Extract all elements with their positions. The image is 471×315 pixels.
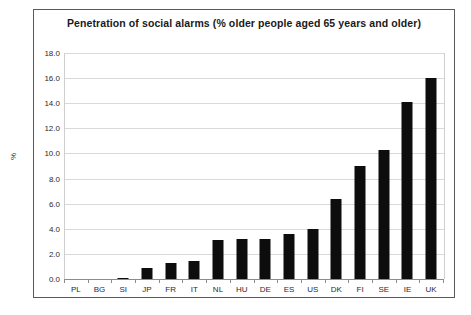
y-axis-tick-label: 0.0 xyxy=(30,275,60,284)
bar-it xyxy=(189,261,200,279)
x-axis-tick-label: SE xyxy=(378,285,389,294)
x-axis-tick xyxy=(372,279,373,283)
y-axis-tick-label: 12.0 xyxy=(30,124,60,133)
bar-series xyxy=(64,53,443,279)
y-axis-tick-labels: 0.02.04.06.08.010.012.014.016.018.0 xyxy=(26,53,60,279)
bar-us xyxy=(307,229,318,279)
x-axis-tick-label: HU xyxy=(236,285,248,294)
x-axis-tick xyxy=(88,279,89,283)
bar-jp xyxy=(141,268,152,279)
x-axis-tick-label: FI xyxy=(357,285,364,294)
x-axis-tick xyxy=(419,279,420,283)
y-axis-tick-label: 16.0 xyxy=(30,74,60,83)
x-axis-tick-label: PL xyxy=(71,285,81,294)
x-axis-tick-label: UK xyxy=(426,285,437,294)
x-axis-tick xyxy=(396,279,397,283)
y-axis-label: % xyxy=(9,153,18,160)
y-axis-tick-label: 18.0 xyxy=(30,49,60,58)
x-axis-tick xyxy=(206,279,207,283)
y-axis-tick-label: 6.0 xyxy=(30,199,60,208)
chart-title: Penetration of social alarms (% older pe… xyxy=(33,17,455,29)
x-axis-tick-label: IE xyxy=(404,285,412,294)
x-axis-tick-label: JP xyxy=(142,285,151,294)
x-axis-tick xyxy=(111,279,112,283)
x-axis-tick xyxy=(64,279,65,283)
x-axis-tick-label: ES xyxy=(284,285,295,294)
y-axis-tick-label: 10.0 xyxy=(30,149,60,158)
x-axis-tick xyxy=(182,279,183,283)
y-axis-tick-label: 8.0 xyxy=(30,174,60,183)
x-axis-tick-label: NL xyxy=(213,285,223,294)
x-axis-tick xyxy=(230,279,231,283)
y-axis-tick-label: 14.0 xyxy=(30,99,60,108)
x-axis-tick xyxy=(325,279,326,283)
bar-se xyxy=(378,150,389,279)
x-axis-tick-label: BG xyxy=(94,285,106,294)
x-axis-tick xyxy=(277,279,278,283)
bar-nl xyxy=(212,240,223,279)
x-axis-tick xyxy=(443,279,444,283)
x-axis-tick xyxy=(348,279,349,283)
x-axis-tick-labels: PLBGSIJPFRITNLHUDEESUSDKFISEIEUK xyxy=(64,285,443,299)
x-axis-ticks xyxy=(64,279,443,283)
x-axis-tick-label: SI xyxy=(119,285,127,294)
bar-ie xyxy=(402,102,413,279)
x-axis-tick xyxy=(301,279,302,283)
x-axis-tick-label: DK xyxy=(331,285,342,294)
bar-es xyxy=(284,234,295,279)
x-axis-tick xyxy=(254,279,255,283)
y-axis-tick-label: 2.0 xyxy=(30,249,60,258)
y-axis-tick-label: 4.0 xyxy=(30,224,60,233)
x-axis-tick-label: FR xyxy=(165,285,176,294)
x-axis-tick-label: US xyxy=(307,285,318,294)
x-axis-tick-label: DE xyxy=(260,285,271,294)
bar-de xyxy=(260,239,271,279)
bar-hu xyxy=(236,239,247,279)
bar-fr xyxy=(165,263,176,279)
x-axis-tick xyxy=(135,279,136,283)
bar-uk xyxy=(426,78,437,279)
chart-figure: Penetration of social alarms (% older pe… xyxy=(0,0,471,315)
bar-fi xyxy=(355,166,366,279)
x-axis-tick xyxy=(159,279,160,283)
bar-dk xyxy=(331,199,342,279)
x-axis-tick-label: IT xyxy=(191,285,198,294)
